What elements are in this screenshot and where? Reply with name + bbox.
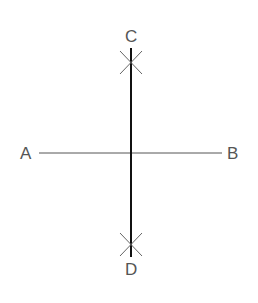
construction-diagram: A B C D: [0, 0, 258, 303]
label-d: D: [125, 260, 137, 279]
label-b: B: [227, 144, 238, 163]
diagram-canvas: A B C D: [0, 0, 258, 303]
label-c: C: [125, 27, 137, 46]
label-a: A: [20, 144, 32, 163]
